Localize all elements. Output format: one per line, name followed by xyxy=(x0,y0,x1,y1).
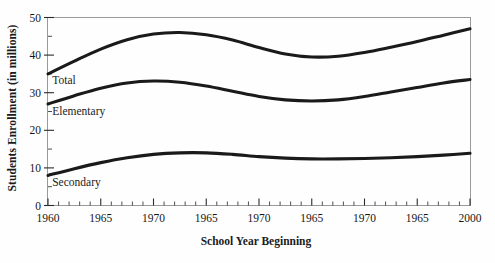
y-tick-label: 50 xyxy=(30,12,42,24)
plot-area: TotalElementarySecondary 01020304050 196… xyxy=(0,0,495,263)
x-tick-label: 1970 xyxy=(142,212,165,224)
x-axis-ticks xyxy=(48,199,470,206)
y-tick-label: 20 xyxy=(30,124,42,136)
x-tick-label: 1960 xyxy=(37,212,60,224)
series-line-elementary xyxy=(48,80,470,104)
y-axis-tick-labels: 01020304050 xyxy=(30,12,42,212)
x-tick-label: 1965 xyxy=(300,212,323,224)
x-axis-tick-labels: 196019651970196519701965197019652000 xyxy=(37,212,482,224)
series-label-total: Total xyxy=(52,74,75,86)
y-tick-label: 0 xyxy=(35,200,41,212)
series-curves xyxy=(48,29,470,176)
x-tick-label: 1965 xyxy=(89,212,112,224)
y-tick-label: 10 xyxy=(30,162,42,174)
y-tick-label: 40 xyxy=(30,49,42,61)
series-line-total xyxy=(48,29,470,74)
x-tick-label: 2000 xyxy=(459,212,482,224)
series-label-elementary: Elementary xyxy=(52,105,105,118)
y-tick-label: 30 xyxy=(30,87,42,99)
series-label-secondary: Secondary xyxy=(52,176,101,189)
x-tick-label: 1970 xyxy=(248,212,271,224)
x-axis-title: School Year Beginning xyxy=(40,235,472,247)
x-tick-label: 1965 xyxy=(406,212,429,224)
x-tick-label: 1970 xyxy=(353,212,376,224)
enrollment-line-chart: Students Enrollment (in millions) TotalE… xyxy=(0,0,495,263)
series-line-secondary xyxy=(48,153,470,176)
x-tick-label: 1965 xyxy=(195,212,218,224)
